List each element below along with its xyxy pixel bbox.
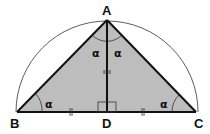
triangle-diagram: α α α α A B D C: [0, 0, 210, 134]
angle-label-a-left: α: [92, 47, 100, 60]
vertex-label-b: B: [10, 116, 19, 131]
angle-label-a-right: α: [114, 47, 122, 60]
vertex-label-d: D: [102, 116, 111, 131]
vertex-label-c: C: [194, 116, 204, 131]
angle-label-c: α: [160, 98, 168, 111]
vertex-label-a: A: [102, 3, 112, 18]
angle-label-b: α: [45, 98, 53, 111]
